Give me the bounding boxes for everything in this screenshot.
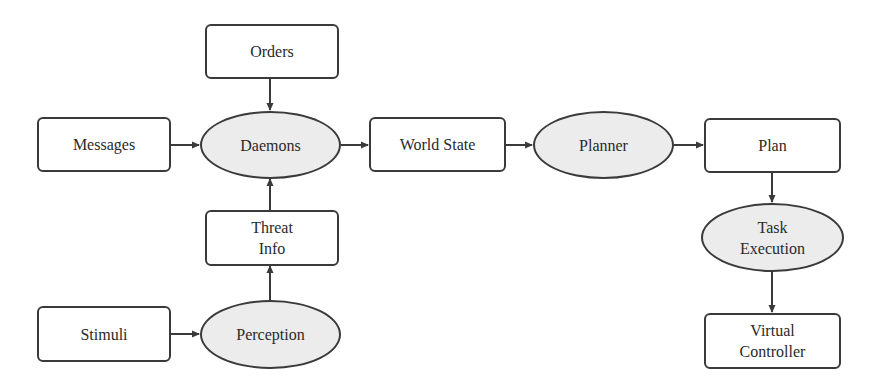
node-threat-info: Threat Info: [205, 210, 339, 266]
node-planner: Planner: [533, 111, 674, 179]
node-label: Plan: [758, 135, 786, 156]
node-perception: Perception: [200, 300, 341, 369]
node-label: Daemons: [240, 135, 300, 156]
node-task-execution: Task Execution: [701, 203, 844, 272]
node-label: Perception: [236, 324, 304, 345]
node-label: Planner: [579, 135, 628, 156]
node-label: Threat Info: [251, 217, 293, 259]
node-label: Virtual Controller: [740, 320, 806, 362]
node-label: World State: [400, 134, 476, 155]
node-world-state: World State: [369, 117, 506, 172]
node-plan: Plan: [704, 118, 841, 173]
node-virtual-controller: Virtual Controller: [704, 313, 841, 369]
node-label: Orders: [250, 41, 294, 62]
node-label: Stimuli: [80, 324, 127, 345]
node-messages: Messages: [37, 117, 171, 172]
node-label: Task Execution: [740, 217, 805, 259]
node-daemons: Daemons: [200, 111, 341, 179]
node-label: Messages: [73, 134, 135, 155]
node-orders: Orders: [205, 24, 339, 79]
node-stimuli: Stimuli: [37, 306, 171, 362]
diagram-canvas: Orders Messages Daemons World State Plan…: [0, 0, 879, 392]
